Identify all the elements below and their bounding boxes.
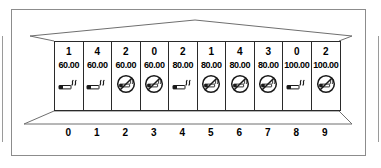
- right-edge-tick: [378, 36, 379, 142]
- no-smoking-icon: [142, 74, 166, 94]
- section-price-value: 80.00: [229, 60, 250, 71]
- section-cell[interactable]: 260.00: [112, 42, 141, 110]
- no-smoking-icon: [199, 74, 223, 94]
- section-price-value: 100.00: [284, 60, 309, 71]
- section-cell[interactable]: 380.00: [255, 42, 284, 110]
- section-count: 2: [180, 46, 186, 57]
- section-index-label: 8: [282, 127, 311, 139]
- no-smoking-icon: [314, 74, 338, 94]
- section-index-label: 4: [168, 127, 197, 139]
- section-cell[interactable]: 060.00: [141, 42, 170, 110]
- section-index-label: 0: [54, 127, 83, 139]
- section-index-label: 5: [197, 127, 226, 139]
- section-index-label: 7: [254, 127, 283, 139]
- no-smoking-icon: [114, 74, 138, 94]
- section-count: 2: [123, 46, 129, 57]
- section-cell[interactable]: 180.00: [198, 42, 227, 110]
- section-cell[interactable]: 160.00: [55, 42, 84, 110]
- section-count: 2: [323, 46, 329, 57]
- section-count: 1: [208, 46, 214, 57]
- section-count: 1: [66, 46, 72, 57]
- smoking-allowed-icon: [85, 74, 109, 94]
- section-index-label: 1: [83, 127, 112, 139]
- left-edge-tick: [2, 36, 3, 142]
- section-price-value: 100.00: [313, 60, 338, 71]
- section-cell[interactable]: 480.00: [226, 42, 255, 110]
- section-cell[interactable]: 280.00: [169, 42, 198, 110]
- section-price-value: 60.00: [58, 60, 79, 71]
- section-count: 0: [294, 46, 300, 57]
- index-label-row: 0123456789: [54, 127, 339, 139]
- section-price-value: 80.00: [201, 60, 222, 71]
- section-price-value: 60.00: [144, 60, 165, 71]
- section-index-label: 9: [311, 127, 340, 139]
- section-index-label: 2: [111, 127, 140, 139]
- section-cell-row: 160.00460.00260.00060.00280.00180.00480.…: [54, 41, 341, 111]
- section-cell[interactable]: 0100.00: [283, 42, 312, 110]
- section-price-value: 60.00: [87, 60, 108, 71]
- section-count: 4: [237, 46, 243, 57]
- smoking-allowed-icon: [285, 74, 309, 94]
- section-price-value: 60.00: [115, 60, 136, 71]
- section-count: 3: [265, 46, 271, 57]
- section-count: 0: [151, 46, 157, 57]
- section-index-label: 6: [225, 127, 254, 139]
- section-price-value: 80.00: [172, 60, 193, 71]
- section-count: 4: [94, 46, 100, 57]
- section-index-label: 3: [140, 127, 169, 139]
- smoking-allowed-icon: [171, 74, 195, 94]
- section-price-value: 80.00: [258, 60, 279, 71]
- section-cell[interactable]: 460.00: [84, 42, 113, 110]
- no-smoking-icon: [228, 74, 252, 94]
- smoking-allowed-icon: [57, 74, 81, 94]
- section-cell[interactable]: 2100.00: [312, 42, 341, 110]
- no-smoking-icon: [256, 74, 280, 94]
